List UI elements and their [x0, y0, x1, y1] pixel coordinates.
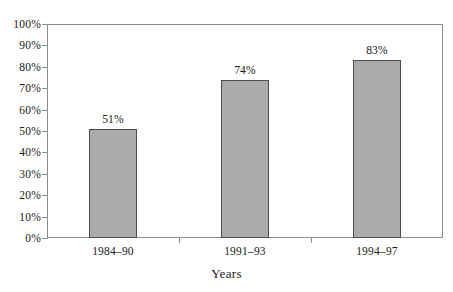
y-tick-mark: [42, 195, 48, 196]
y-tick-mark: [42, 238, 48, 239]
y-tick-label: 20%: [0, 189, 41, 201]
y-tick-mark: [42, 174, 48, 175]
bar-value-label: 74%: [234, 64, 256, 77]
bar-chart: 100%90%80%70%60%50%40%30%20%10%0% 51%74%…: [0, 0, 453, 292]
bar-value-label: 51%: [102, 113, 124, 126]
y-tick-label: 90%: [0, 39, 41, 51]
y-tick-mark: [42, 88, 48, 89]
y-tick-mark: [42, 24, 48, 25]
x-axis: 1984–901991–931994–97: [47, 244, 443, 262]
bar-value-label: 83%: [366, 44, 388, 57]
x-tick-label: 1984–90: [92, 244, 134, 258]
bar: [353, 60, 401, 238]
y-tick-label: 40%: [0, 146, 41, 158]
y-tick-label: 100%: [0, 18, 41, 30]
x-tick-mark: [311, 238, 312, 243]
bar: [89, 129, 137, 238]
bar: [221, 80, 269, 238]
y-tick-label: 30%: [0, 168, 41, 180]
y-tick-mark: [42, 131, 48, 132]
y-tick-mark: [42, 217, 48, 218]
y-tick-label: 80%: [0, 61, 41, 73]
x-tick-label: 1994–97: [356, 244, 398, 258]
x-tick-mark: [179, 238, 180, 243]
y-axis: 100%90%80%70%60%50%40%30%20%10%0%: [0, 24, 41, 238]
y-tick-label: 0%: [0, 232, 41, 244]
y-tick-label: 10%: [0, 211, 41, 223]
y-tick-label: 70%: [0, 82, 41, 94]
y-tick-mark: [42, 67, 48, 68]
y-tick-label: 50%: [0, 125, 41, 137]
y-tick-mark: [42, 110, 48, 111]
x-axis-title: Years: [0, 266, 453, 282]
y-tick-mark: [42, 45, 48, 46]
y-tick-mark: [42, 152, 48, 153]
x-tick-label: 1991–93: [224, 244, 266, 258]
y-tick-label: 60%: [0, 104, 41, 116]
